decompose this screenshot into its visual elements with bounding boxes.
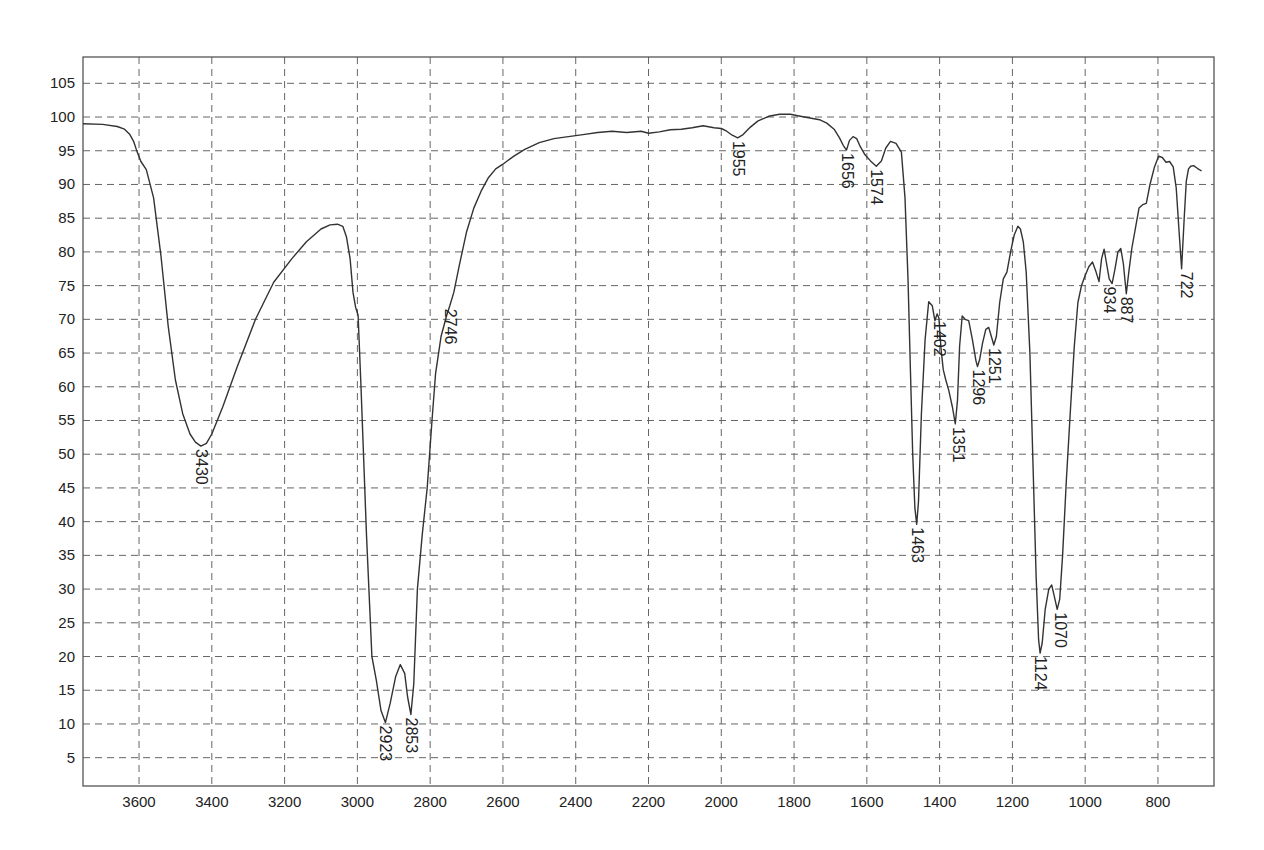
x-tick-label: 1600 bbox=[850, 793, 883, 810]
y-tick-label: 30 bbox=[58, 580, 75, 597]
y-tick-label: 40 bbox=[58, 513, 75, 530]
x-tick-label: 1200 bbox=[996, 793, 1029, 810]
ir-spectrum-chart: 5101520253035404550556065707580859095100… bbox=[0, 0, 1264, 850]
x-tick-label: 2800 bbox=[413, 793, 446, 810]
x-tick-label: 3600 bbox=[122, 793, 155, 810]
y-tick-label: 95 bbox=[58, 142, 75, 159]
peak-label: 1351 bbox=[950, 427, 967, 463]
peak-label: 722 bbox=[1178, 272, 1195, 299]
x-tick-label: 2200 bbox=[632, 793, 665, 810]
y-tick-label: 80 bbox=[58, 243, 75, 260]
y-tick-label: 45 bbox=[58, 479, 75, 496]
x-tick-label: 3000 bbox=[341, 793, 374, 810]
peak-label: 1656 bbox=[839, 153, 856, 189]
y-tick-label: 25 bbox=[58, 614, 75, 631]
peak-label: 2853 bbox=[403, 718, 420, 754]
x-tick-label: 1400 bbox=[923, 793, 956, 810]
peak-label: 2746 bbox=[442, 309, 459, 345]
y-tick-label: 10 bbox=[58, 715, 75, 732]
peak-label: 1124 bbox=[1032, 656, 1049, 691]
x-tick-label: 1800 bbox=[777, 793, 810, 810]
y-tick-label: 15 bbox=[58, 681, 75, 698]
x-tick-label: 3200 bbox=[268, 793, 301, 810]
x-axis-tick-labels: 3600340032003000280026002400220020001800… bbox=[122, 793, 1170, 810]
peak-label: 887 bbox=[1118, 297, 1135, 324]
y-tick-label: 85 bbox=[58, 209, 75, 226]
y-tick-label: 55 bbox=[58, 411, 75, 428]
peak-label: 3430 bbox=[193, 449, 210, 485]
y-tick-label: 35 bbox=[58, 546, 75, 563]
y-tick-label: 20 bbox=[58, 648, 75, 665]
y-axis-tick-labels: 5101520253035404550556065707580859095100… bbox=[50, 74, 75, 765]
peak-label: 1251 bbox=[986, 348, 1003, 384]
y-tick-label: 90 bbox=[58, 175, 75, 192]
peak-label: 1296 bbox=[970, 370, 987, 406]
y-tick-label: 75 bbox=[58, 277, 75, 294]
x-tick-label: 2400 bbox=[559, 793, 592, 810]
x-tick-label: 2000 bbox=[705, 793, 738, 810]
x-tick-label: 800 bbox=[1145, 793, 1170, 810]
y-tick-label: 60 bbox=[58, 378, 75, 395]
peak-label: 1402 bbox=[931, 321, 948, 357]
x-tick-label: 1000 bbox=[1068, 793, 1101, 810]
x-tick-label: 2600 bbox=[486, 793, 519, 810]
y-tick-label: 50 bbox=[58, 445, 75, 462]
y-tick-label: 70 bbox=[58, 310, 75, 327]
x-tick-label: 3400 bbox=[195, 793, 228, 810]
peak-label: 934 bbox=[1101, 287, 1118, 314]
spectrum-line bbox=[83, 114, 1202, 722]
peak-label: 1955 bbox=[730, 141, 747, 177]
peak-label: 1463 bbox=[909, 527, 926, 563]
y-tick-label: 5 bbox=[67, 749, 75, 766]
y-tick-label: 105 bbox=[50, 74, 75, 91]
peak-label: 1070 bbox=[1052, 612, 1069, 648]
peak-annotations: 3430292328532746195516561574146314021351… bbox=[193, 141, 1195, 761]
peak-label: 1574 bbox=[868, 169, 885, 205]
peak-label: 2923 bbox=[377, 726, 394, 762]
y-tick-label: 100 bbox=[50, 108, 75, 125]
y-tick-label: 65 bbox=[58, 344, 75, 361]
